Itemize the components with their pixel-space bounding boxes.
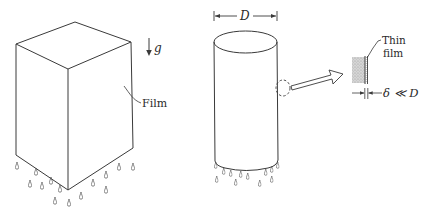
thin-film-label-line2: film <box>383 47 403 59</box>
cylinder <box>214 31 278 171</box>
cylinder-top-ellipse <box>214 31 277 53</box>
rectangular-block <box>16 22 133 190</box>
detail-marker-circle <box>276 80 290 96</box>
falling-film-diagram: g Film D <box>0 0 427 214</box>
block-top-face <box>16 22 131 69</box>
block-bottom-left-edge <box>16 155 68 190</box>
gravity-label: g <box>154 41 162 55</box>
block-bottom-right-edge <box>68 148 133 190</box>
wall-section <box>352 57 365 83</box>
diameter-label: D <box>239 9 250 23</box>
detail-callout-arrow-icon <box>291 70 343 90</box>
film-label: Film <box>142 97 168 110</box>
cylinder-bottom-curve <box>215 160 278 171</box>
thin-film-leader-line <box>367 40 381 58</box>
thickness-dimension <box>352 88 382 99</box>
block-right-edge <box>131 42 133 148</box>
cylinder-right-side <box>277 42 278 160</box>
thickness-label: δ ≪ D <box>383 86 418 100</box>
cylinder-droplets <box>214 162 279 186</box>
thin-film-label-line1: Thin <box>382 34 406 46</box>
gravity-arrow-icon <box>146 38 152 56</box>
block-droplets <box>15 162 134 206</box>
thin-film-detail <box>352 56 368 84</box>
cylinder-left-side <box>214 42 215 161</box>
